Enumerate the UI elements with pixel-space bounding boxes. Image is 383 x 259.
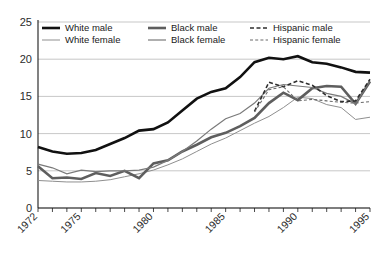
x-tick-label-1972: 1972 (14, 210, 39, 235)
x-tick-label-1975: 1975 (58, 210, 83, 235)
x-tick-label-1985: 1985 (202, 210, 227, 235)
axes (38, 20, 370, 208)
series-line-white-female (38, 97, 370, 182)
legend-label-white-male: White male (65, 22, 113, 33)
y-tick-label-10: 10 (20, 128, 32, 140)
y-tick-label-20: 20 (20, 53, 32, 65)
legend-label-black-male: Black male (171, 22, 217, 33)
line-chart: 2520151050197219751980198519901995White … (0, 0, 383, 259)
legend: White maleBlack maleHispanic maleWhite f… (42, 22, 341, 45)
x-tick-marks (38, 208, 370, 212)
series-line-white-male (38, 56, 370, 153)
x-tick-label-1980: 1980 (130, 210, 155, 235)
x-tick-label-1990: 1990 (274, 210, 299, 235)
y-tick-labels: 2520151050 (20, 16, 32, 214)
legend-label-hispanic-male: Hispanic male (273, 22, 333, 33)
y-tick-label-15: 15 (20, 90, 32, 102)
chart-canvas: 2520151050197219751980198519901995White … (0, 0, 383, 259)
legend-label-black-female: Black female (171, 34, 225, 45)
gridlines (38, 22, 370, 208)
y-tick-label-5: 5 (26, 165, 32, 177)
x-tick-label-1995: 1995 (346, 210, 371, 235)
series-group (38, 56, 370, 182)
x-tick-labels: 197219751980198519901995 (14, 210, 371, 235)
series-line-hispanic-male (255, 79, 370, 111)
legend-label-white-female: White female (65, 34, 120, 45)
y-tick-label-25: 25 (20, 16, 32, 28)
legend-label-hispanic-female: Hispanic female (273, 34, 341, 45)
